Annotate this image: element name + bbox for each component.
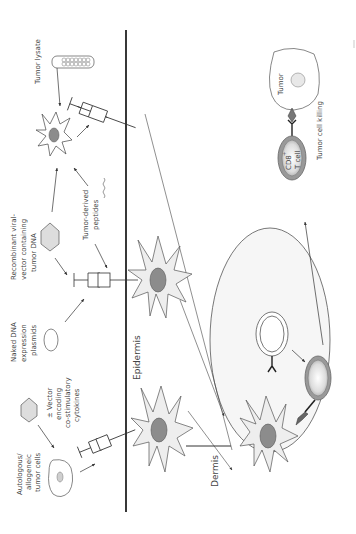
- label-naked-dna-1: Naked DNA: [10, 322, 18, 362]
- label-recombinant-vector-1: Recombinant viral-: [10, 213, 18, 280]
- label-tumor-cells-3: tumor cells: [34, 453, 42, 492]
- arrow-peptides-to-syringe: [95, 244, 107, 268]
- label-tumor-cells-2: allogeneic: [25, 454, 33, 490]
- label-recombinant-vector-3: tumor DNA: [30, 233, 38, 272]
- plasmid-icon: [44, 329, 58, 351]
- syringe-bottom: [77, 424, 137, 458]
- arrow-peptides-to-dc: [74, 168, 88, 186]
- label-naked-dna-2: expression: [20, 324, 28, 362]
- arrow-tumor-cells-to-syringe: [80, 464, 95, 472]
- label-tumor-lysate: Tumor lysate: [34, 39, 42, 85]
- arrow-dc-to-syringe-top: [77, 125, 89, 137]
- label-peptides-1: Tumor-derived: [82, 190, 90, 241]
- peptide-chain-icon: [103, 178, 105, 198]
- label-costim-1: ± Vector: [46, 387, 54, 418]
- diagram-canvas: Tumor lysate Recombinant viral- vector c…: [0, 0, 356, 534]
- syringe-top: [67, 97, 138, 134]
- viral-vector-hexagon: [41, 223, 59, 251]
- tumor-cell-source: [49, 460, 73, 497]
- label-tumor-cells-1: Autologous/: [16, 453, 24, 495]
- diagram-svg: Tumor lysate Recombinant viral- vector c…: [0, 0, 356, 534]
- arrow-plasmid-to-syringe: [65, 299, 84, 322]
- syringe-middle: [74, 273, 138, 287]
- label-cd8: CD8: [285, 155, 293, 170]
- dendritic-cell-pulsed: [36, 112, 72, 156]
- label-costim-3: co-stimulatory: [64, 377, 72, 428]
- label-epidermis: Epidermis: [132, 335, 142, 380]
- label-cd8-superscript: +: [281, 152, 287, 156]
- arrow-lysate-to-dc: [57, 68, 60, 106]
- label-t-cell: T cell: [294, 150, 302, 170]
- arrow-costim-to-syringe: [38, 425, 54, 448]
- label-tumor: Tumor: [277, 73, 285, 96]
- label-costim-4: cytokines: [73, 388, 81, 422]
- label-costim-2: encoding: [55, 388, 63, 420]
- tumor-lysate-tube: [52, 56, 94, 68]
- label-peptides-2: peptides: [92, 199, 100, 230]
- tcr-mhc-synapse: [288, 108, 296, 136]
- dendritic-cell-dermis: [131, 386, 193, 472]
- label-dermis: Dermis: [210, 455, 220, 487]
- label-tumor-cell-killing: Tumor cell killing: [316, 101, 324, 161]
- costim-vector-hexagon: [21, 398, 37, 422]
- label-recombinant-vector-2: vector containing: [20, 219, 28, 280]
- label-naked-dna-3: plasmids: [30, 324, 38, 356]
- arrow-viral-to-dc: [52, 168, 57, 212]
- arrow-viral-to-syringe: [55, 258, 67, 275]
